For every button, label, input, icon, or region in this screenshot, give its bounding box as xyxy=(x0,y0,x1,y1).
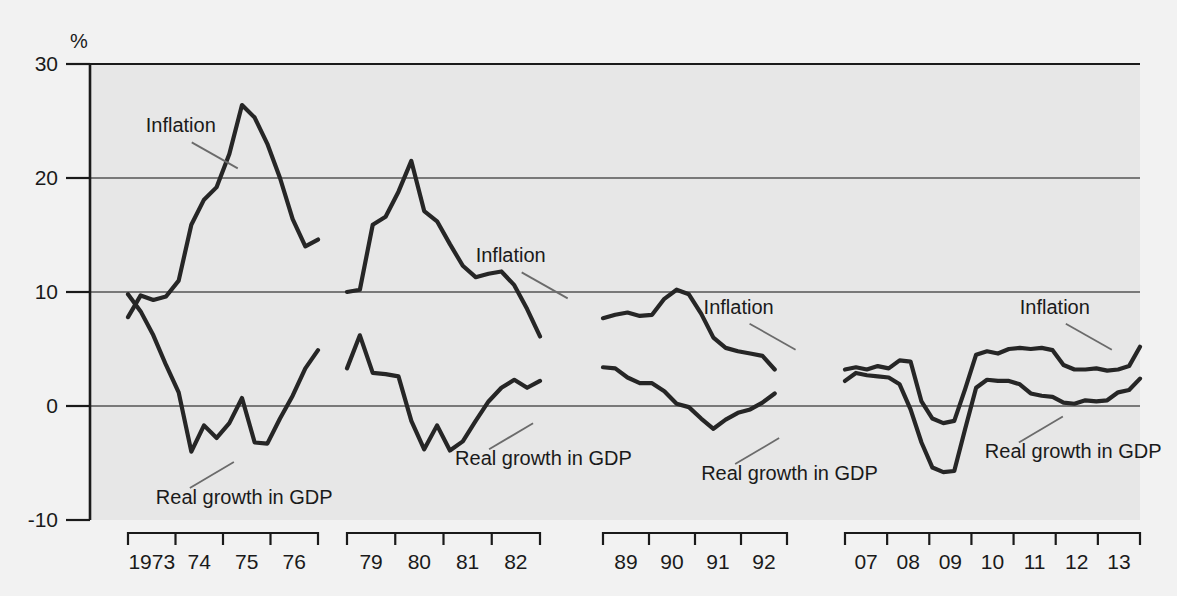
x-tick-label: 82 xyxy=(504,550,527,573)
y-tick-label: 0 xyxy=(46,394,58,417)
series-annotation-label: Real growth in GDP xyxy=(455,447,632,469)
x-tick-label: 13 xyxy=(1107,550,1130,573)
x-tick-label: 91 xyxy=(706,550,729,573)
chart-container: 3020100-10 % InflationReal growth in GDP… xyxy=(0,0,1177,596)
x-tick-label: 07 xyxy=(854,550,877,573)
x-tick-label: 79 xyxy=(359,550,382,573)
x-tick-label: 74 xyxy=(188,550,212,573)
x-tick-label: 08 xyxy=(897,550,920,573)
y-tick-label: 10 xyxy=(35,280,58,303)
x-tick-label: 80 xyxy=(408,550,431,573)
x-tick-label: 1973 xyxy=(128,550,175,573)
x-tick-label: 75 xyxy=(235,550,258,573)
x-tick-label: 89 xyxy=(614,550,637,573)
series-annotation-label: Real growth in GDP xyxy=(156,486,333,508)
x-tick-label: 92 xyxy=(752,550,775,573)
x-axis: 1973747576798081828990919207080910111213 xyxy=(128,533,1140,573)
x-tick-label: 11 xyxy=(1024,550,1046,573)
series-annotation-label: Inflation xyxy=(476,244,546,266)
y-axis-unit-label: % xyxy=(70,30,88,52)
series-annotation-label: Inflation xyxy=(704,296,774,318)
series-annotation-label: Inflation xyxy=(146,114,216,136)
x-tick-label: 76 xyxy=(283,550,306,573)
series-annotation-label: Real growth in GDP xyxy=(985,440,1162,462)
y-tick-label: 30 xyxy=(35,52,58,75)
x-tick-label: 10 xyxy=(981,550,1004,573)
x-tick-label: 12 xyxy=(1065,550,1088,573)
line-chart: 3020100-10 % InflationReal growth in GDP… xyxy=(0,0,1177,596)
series-annotation-label: Real growth in GDP xyxy=(701,462,878,484)
x-axis-bracket xyxy=(845,533,1140,545)
y-tick-label: 20 xyxy=(35,166,58,189)
y-tick-label: -10 xyxy=(28,508,58,531)
x-tick-label: 81 xyxy=(456,550,479,573)
x-tick-label: 09 xyxy=(939,550,962,573)
series-annotation-label: Inflation xyxy=(1020,296,1090,318)
x-tick-label: 90 xyxy=(660,550,683,573)
